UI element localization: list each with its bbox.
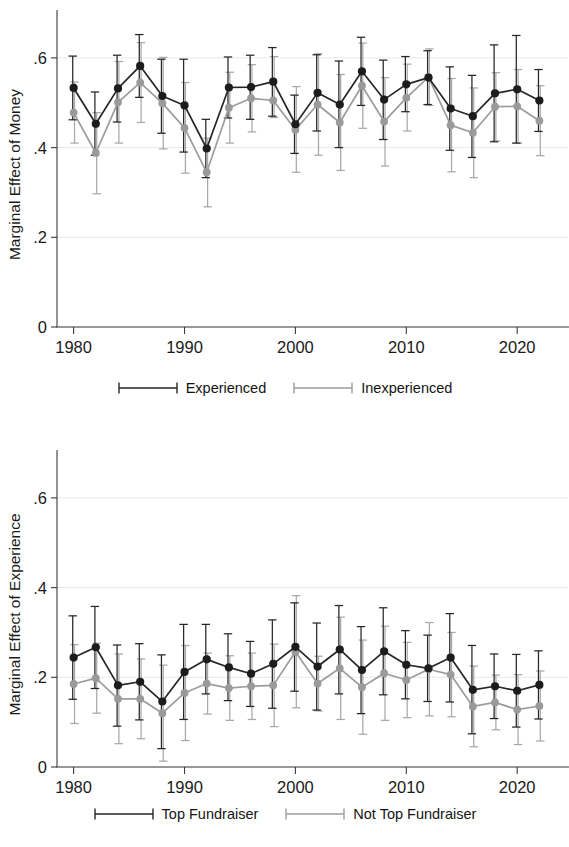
data-point [313,89,321,97]
data-point [402,94,410,102]
data-point [92,149,100,157]
data-point [136,695,144,703]
data-point [380,647,388,655]
y-tick-label: 0 [38,758,47,776]
data-point [158,92,166,100]
legend-label-inexperienced: Inexperienced [361,380,452,396]
y-axis-title: Marginal Effect of Experience [6,513,23,715]
x-tick-label: 2010 [388,338,425,356]
data-point [447,104,455,112]
data-point [314,101,322,109]
data-point [358,67,366,75]
x-tick-label: 2000 [277,338,314,356]
data-point [92,643,100,651]
data-point [491,103,499,111]
legend-key-line-icon [284,807,346,821]
legend-entry-not-top-fundraiser: Not Top Fundraiser [284,806,476,822]
y-tick-label: .4 [33,139,47,157]
data-point [358,82,366,90]
data-point [181,689,189,697]
data-point [491,89,499,97]
legend-label-experienced: Experienced [186,380,267,396]
data-point [181,124,189,132]
data-point [358,666,366,674]
data-point [247,94,255,102]
legend-key-line-icon [93,807,155,821]
data-point [447,671,455,679]
data-point [447,653,455,661]
legend-entry-top-fundraiser: Top Fundraiser [93,806,259,822]
y-tick-label: .2 [33,668,47,686]
data-point [247,83,255,91]
data-point [402,80,410,88]
data-point [114,84,122,92]
x-tick-label: 2020 [499,778,536,796]
data-point [424,74,432,82]
y-axis-title: Marginal Effect of Money [6,89,23,260]
data-point [269,78,277,86]
data-point [225,684,233,692]
data-point [535,681,543,689]
y-tick-label: .6 [33,49,47,67]
data-point [70,653,78,661]
data-point [336,645,344,653]
series-line-dark [74,66,540,149]
data-point [380,96,388,104]
data-point [114,695,122,703]
error-bars-dark [69,603,543,749]
data-point [136,62,144,70]
data-point [180,668,188,676]
data-point [336,119,344,127]
data-point [358,683,366,691]
data-point [469,686,477,694]
x-tick-label: 1990 [166,778,203,796]
legend-label-top-fundraiser: Top Fundraiser [162,806,259,822]
data-point [469,703,477,711]
series-line-dark [74,647,540,702]
data-point [291,643,299,651]
y-tick-label: .4 [33,579,47,597]
data-point [203,655,211,663]
x-tick-label: 1980 [55,338,92,356]
data-point [114,681,122,689]
data-point [313,662,321,670]
x-tick-label: 2000 [277,778,314,796]
data-point [314,680,322,688]
data-point [203,144,211,152]
data-point [225,663,233,671]
data-point [225,104,233,112]
legend-entry-inexperienced: Inexperienced [292,380,452,396]
data-point [247,670,255,678]
data-point [513,85,521,93]
data-point [158,709,166,717]
data-point [402,676,410,684]
data-point [380,118,388,126]
legend-key-line-icon [292,381,354,395]
data-point [424,664,432,672]
data-point [336,664,344,672]
data-point [92,120,100,128]
data-point [136,678,144,686]
x-tick-label: 2010 [388,778,425,796]
data-point [114,98,122,106]
data-point [225,83,233,91]
chart-marginal-effect-of-money: 0.2.4.619801990200020102020Marginal Effe… [0,0,569,420]
data-point [380,669,388,677]
data-point [70,109,78,117]
data-point [136,79,144,87]
data-point [491,682,499,690]
data-point [513,706,521,714]
error-bars-dark [69,35,543,178]
panel-marginal-effect-of-experience: 0.2.4.619801990200020102020Marginal Effe… [0,427,569,847]
chart-marginal-effect-of-experience: 0.2.4.619801990200020102020Marginal Effe… [0,427,569,847]
x-tick-label: 1990 [166,338,203,356]
data-point [269,681,277,689]
data-point [535,702,543,710]
data-point [402,661,410,669]
data-point [158,99,166,107]
panel-marginal-effect-of-money: 0.2.4.619801990200020102020Marginal Effe… [0,0,569,420]
data-point [203,168,211,176]
data-point [513,687,521,695]
y-tick-label: 0 [38,318,47,336]
y-tick-label: .2 [33,228,47,246]
